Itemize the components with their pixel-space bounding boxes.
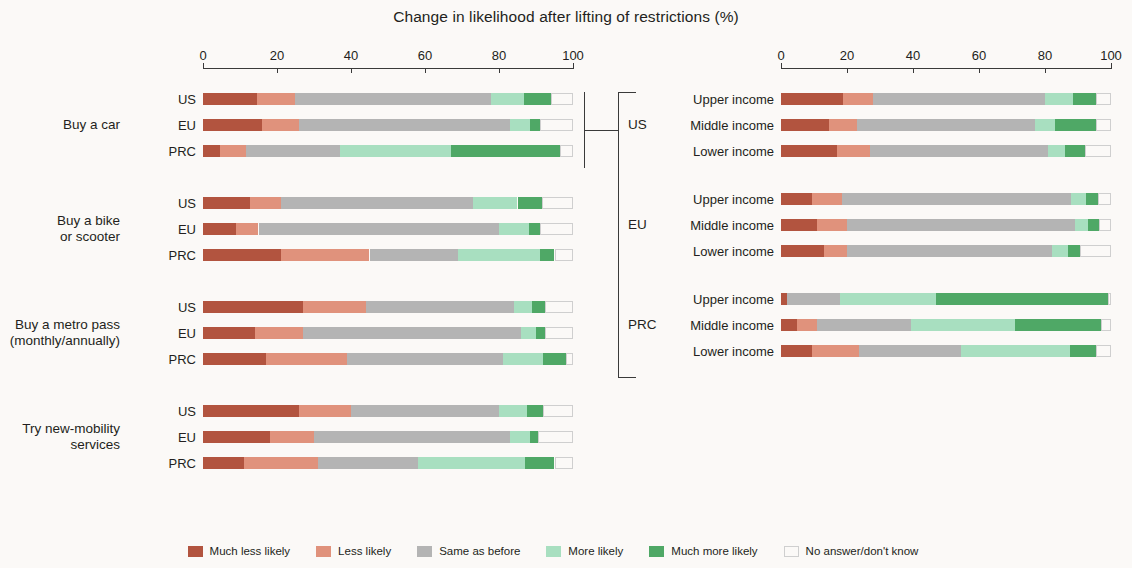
legend-item[interactable]: Much more likely (649, 545, 757, 557)
legend-label: Much more likely (671, 545, 757, 557)
legend-label: Same as before (439, 545, 520, 557)
legend-label: Much less likely (210, 545, 291, 557)
legend-item[interactable]: More likely (546, 545, 623, 557)
chart-legend: Much less likelyLess likelySame as befor… (0, 545, 1132, 557)
legend-item[interactable]: No answer/don't know (784, 545, 919, 557)
legend-item[interactable]: Less likely (316, 545, 391, 557)
legend-swatch-less (316, 546, 331, 557)
legend-swatch-much_less (188, 546, 203, 557)
source-bracket-arm (584, 130, 618, 131)
legend-swatch-more (546, 546, 561, 557)
legend-item[interactable]: Much less likely (188, 545, 291, 557)
target-bracket-bottom-arm (618, 377, 636, 378)
legend-swatch-no_answer (784, 546, 799, 557)
legend-label: No answer/don't know (806, 545, 919, 557)
target-bracket-top-arm (618, 92, 636, 93)
legend-label: Less likely (338, 545, 391, 557)
chart-canvas: Change in likelihood after lifting of re… (0, 0, 1132, 568)
legend-item[interactable]: Same as before (417, 545, 520, 557)
panel-connector-brackets (0, 0, 1132, 568)
legend-swatch-same (417, 546, 432, 557)
legend-label: More likely (568, 545, 623, 557)
target-bracket-spine (618, 92, 619, 377)
legend-swatch-much_more (649, 546, 664, 557)
